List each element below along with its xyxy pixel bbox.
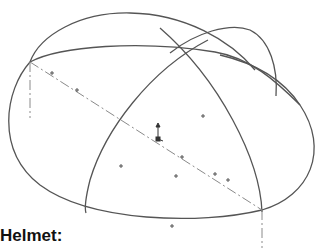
center-axis-line (30, 62, 262, 210)
helmet-shell-arc-back (30, 13, 255, 70)
helmet-meridian-left (85, 40, 208, 213)
helmet-wireframe-drawing (0, 0, 324, 248)
helmet-shell-arc-front (30, 46, 300, 105)
helmet-rim-curve (9, 55, 314, 218)
origin-triad-icon (156, 123, 163, 141)
helmet-label: Helmet: (0, 226, 62, 246)
helmet-side-lobe (170, 27, 276, 96)
helmet-meridian-right (160, 28, 262, 212)
